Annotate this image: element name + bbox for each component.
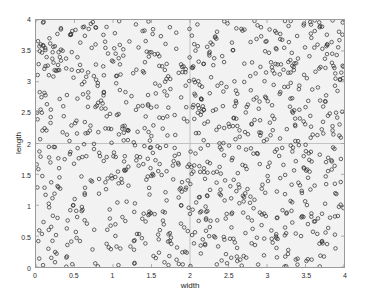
x-tick-label: 2.5 <box>224 271 234 280</box>
x-tick-label: 0.5 <box>69 271 79 280</box>
y-tick-label: 3 <box>11 77 31 86</box>
y-tick-label: 1.5 <box>11 170 31 179</box>
x-tick-label: 4 <box>343 271 347 280</box>
x-tick-label: 2 <box>188 271 192 280</box>
scatter-plot-svg <box>36 20 344 267</box>
plot-axes-area <box>35 19 345 268</box>
y-tick-label: 3.5 <box>11 46 31 55</box>
figure-canvas: 00.511.522.533.54 00.511.522.533.54 widt… <box>0 0 366 302</box>
x-tick-label: 1.5 <box>146 271 156 280</box>
y-tick-label: 0 <box>11 264 31 273</box>
x-tick-label: 0 <box>33 271 37 280</box>
y-tick-label: 4 <box>11 15 31 24</box>
x-tick-label: 3.5 <box>301 271 311 280</box>
y-tick-label: 0.5 <box>11 232 31 241</box>
x-tick-label: 1 <box>111 271 115 280</box>
y-tick-label: 2.5 <box>11 108 31 117</box>
y-axis-title: length <box>14 132 23 154</box>
x-tick-label: 3 <box>266 271 270 280</box>
x-axis-title: width <box>181 281 200 290</box>
y-tick-label: 1 <box>11 201 31 210</box>
